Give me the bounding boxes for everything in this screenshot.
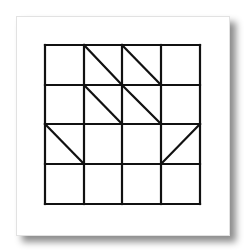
diagonal-line [84,45,122,85]
diagonal-line [122,45,161,85]
diagonal-line [161,124,200,164]
diagonal-line [122,85,161,124]
diagonal-line [84,85,122,124]
quilt-grid-diagram [0,0,248,251]
diagonal-line [45,124,84,164]
figure-stage [0,0,248,251]
